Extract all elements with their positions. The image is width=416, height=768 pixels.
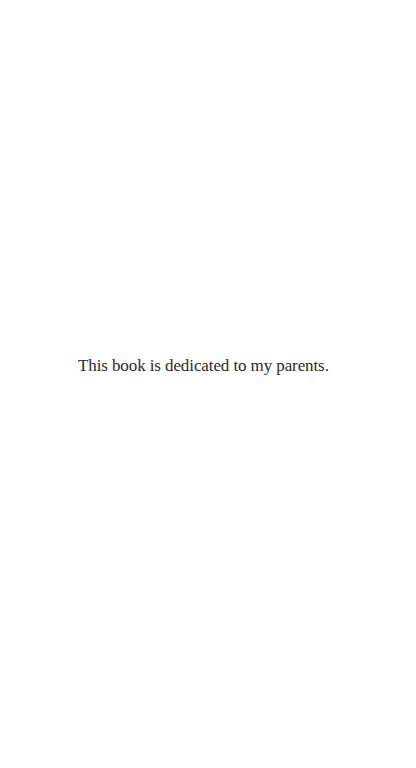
book-page: This book is dedicated to my parents.	[0, 0, 416, 768]
dedication-text: This book is dedicated to my parents.	[78, 356, 329, 376]
